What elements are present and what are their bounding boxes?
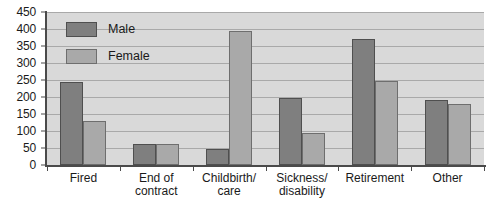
gridline bbox=[47, 114, 484, 115]
gridline bbox=[47, 12, 484, 13]
x-axis-category-label-line: Sickness/ bbox=[276, 171, 327, 185]
y-axis-tick-label: 50 bbox=[23, 141, 36, 155]
gridline bbox=[47, 80, 484, 81]
legend-item-male[interactable]: Male bbox=[66, 20, 150, 38]
y-axis: 050100150200250300350400450 bbox=[0, 0, 42, 208]
gridline bbox=[47, 131, 484, 132]
bar-male-1 bbox=[133, 144, 156, 165]
bar-male-4 bbox=[352, 39, 375, 165]
x-axis-tick-mark bbox=[338, 166, 339, 171]
female-swatch bbox=[66, 49, 97, 64]
gridline bbox=[47, 97, 484, 98]
y-axis-tick-label: 400 bbox=[17, 22, 36, 36]
chart-legend: MaleFemale bbox=[66, 20, 150, 74]
bar-female-5 bbox=[448, 104, 471, 165]
y-axis-tick-label: 250 bbox=[17, 73, 36, 87]
x-axis-tick-mark bbox=[120, 166, 121, 171]
x-axis-category-label-line: End of bbox=[139, 171, 174, 185]
bar-chart: 050100150200250300350400450 MaleFemale F… bbox=[0, 0, 504, 208]
bar-female-3 bbox=[302, 133, 325, 165]
y-axis-tick-label: 300 bbox=[17, 56, 36, 70]
y-axis-tick-label: 450 bbox=[17, 5, 36, 19]
x-axis-category-label: Retirement bbox=[345, 172, 404, 185]
bar-male-2 bbox=[206, 149, 229, 165]
y-axis-tick-label: 0 bbox=[30, 158, 36, 172]
x-axis-category-label-line: Childbirth/ bbox=[202, 171, 256, 185]
legend-item-label: Male bbox=[108, 22, 135, 36]
x-axis-category-label: End ofcontract bbox=[135, 172, 178, 198]
x-axis-category-label-line: Fired bbox=[70, 171, 97, 185]
x-axis-tick-mark bbox=[47, 166, 48, 171]
legend-item-female[interactable]: Female bbox=[66, 47, 150, 65]
x-axis-category-label: Childbirth/care bbox=[202, 172, 256, 198]
x-axis-tick-mark bbox=[266, 166, 267, 171]
y-axis-tick-label: 350 bbox=[17, 39, 36, 53]
x-axis-category-label-line: Retirement bbox=[345, 171, 404, 185]
x-axis-category-label-line: Other bbox=[433, 171, 463, 185]
bar-female-2 bbox=[229, 31, 252, 165]
bar-male-3 bbox=[279, 98, 302, 165]
gridline bbox=[47, 148, 484, 149]
bar-female-4 bbox=[375, 81, 398, 165]
bar-female-0 bbox=[83, 121, 106, 165]
y-axis-tick-label: 200 bbox=[17, 90, 36, 104]
x-axis-tick-mark bbox=[411, 166, 412, 171]
x-axis-category-label: Sickness/disability bbox=[276, 172, 327, 198]
y-axis-tick-label: 150 bbox=[17, 107, 36, 121]
x-axis-category-label-line: contract bbox=[135, 185, 178, 198]
bar-female-1 bbox=[156, 144, 179, 165]
x-axis-category-label-line: care bbox=[202, 185, 256, 198]
x-axis-tick-mark bbox=[193, 166, 194, 171]
x-axis-tick-mark bbox=[484, 166, 485, 171]
x-axis-category-label: Fired bbox=[70, 172, 97, 185]
male-swatch bbox=[66, 22, 97, 37]
x-axis-category-label-line: disability bbox=[276, 185, 327, 198]
legend-item-label: Female bbox=[108, 49, 150, 63]
x-axis-category-label: Other bbox=[433, 172, 463, 185]
bar-male-5 bbox=[425, 100, 448, 165]
y-axis-tick-label: 100 bbox=[17, 124, 36, 138]
bar-male-0 bbox=[60, 82, 83, 165]
